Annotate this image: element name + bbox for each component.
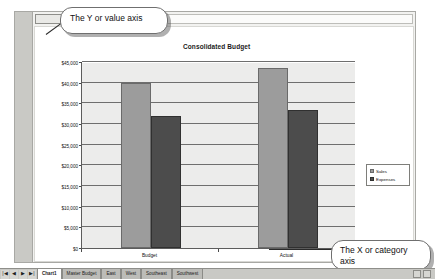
bar-sales-budget[interactable] <box>121 83 151 248</box>
legend-item-sales[interactable]: Sales <box>370 167 407 175</box>
sheet-tab-southeast[interactable]: Southeast <box>141 269 172 279</box>
sheet-tab-bar[interactable]: |◀◀▶▶| Chart1Master BudgetEastWestSouthe… <box>0 268 435 279</box>
bars-layer[interactable] <box>82 63 355 248</box>
tab-nav-button-3[interactable]: ▶| <box>28 270 36 279</box>
plot-area[interactable] <box>81 63 355 249</box>
y-axis[interactable]: $0$5,000$10,000$15,000$20,000$25,000$30,… <box>41 63 78 249</box>
legend-swatch-icon <box>370 177 374 181</box>
gridline <box>82 61 355 62</box>
y-axis-tick-label: $30,000 <box>61 123 78 128</box>
sheet-tab-master-budget[interactable]: Master Budget <box>62 269 102 279</box>
bar-sales-actual[interactable] <box>258 68 288 248</box>
y-axis-tick-label: $25,000 <box>61 143 78 148</box>
y-axis-tick-label: $40,000 <box>61 81 78 86</box>
y-axis-tick-label: $20,000 <box>61 164 78 169</box>
tab-nav-button-1[interactable]: ◀ <box>10 270 18 279</box>
bar-expenses-budget[interactable] <box>151 116 181 248</box>
legend-label: Sales <box>376 169 387 174</box>
legend-label: Expenses <box>376 177 395 182</box>
bar-expenses-actual[interactable] <box>288 110 318 248</box>
chart-title[interactable]: Consolidated Budget <box>183 43 250 50</box>
tab-nav-buttons[interactable]: |◀◀▶▶| <box>0 269 37 279</box>
x-axis-tick <box>218 249 219 252</box>
y-axis-tick-label: $35,000 <box>61 102 78 107</box>
legend-swatch-icon <box>370 169 374 173</box>
sheet-tab-chart1[interactable]: Chart1 <box>37 269 62 279</box>
sheet-tab-southwest[interactable]: Southwest <box>172 269 203 279</box>
x-axis-category-label: Budget <box>142 253 157 258</box>
y-axis-tick-label: $10,000 <box>61 205 78 210</box>
worksheet-page-frame: ▼ Consolidated Budget $0$5,000$10,000$15… <box>14 11 416 263</box>
tab-nav-button-0[interactable]: |◀ <box>1 270 9 279</box>
y-axis-tick-label: $0 <box>73 247 78 252</box>
chart-legend[interactable]: Sales Expenses <box>366 164 410 186</box>
status-area <box>411 269 435 279</box>
status-indicator-box <box>413 270 421 278</box>
sheet-tab-west[interactable]: West <box>121 269 141 279</box>
sheet-tab-east[interactable]: East <box>101 269 120 279</box>
legend-item-expenses[interactable]: Expenses <box>370 175 407 183</box>
x-axis-category-label: Actual <box>280 253 293 258</box>
chart-canvas[interactable]: Consolidated Budget $0$5,000$10,000$15,0… <box>34 26 414 262</box>
status-indicator-box <box>423 270 431 278</box>
callout-y-axis: The Y or value axis <box>60 7 168 34</box>
row-header-gutter <box>15 12 33 262</box>
x-axis-tick <box>81 249 82 252</box>
callout-leader-line <box>269 249 333 250</box>
tab-nav-button-2[interactable]: ▶ <box>19 270 27 279</box>
y-axis-tick-label: $15,000 <box>61 185 78 190</box>
tab-bar-filler <box>203 269 411 279</box>
y-axis-tick-label: $5,000 <box>64 226 78 231</box>
y-axis-tick-label: $45,000 <box>61 61 78 66</box>
sheet-tabs[interactable]: Chart1Master BudgetEastWestSoutheastSout… <box>37 269 203 279</box>
excel-chart-sheet-screenshot: ▼ Consolidated Budget $0$5,000$10,000$15… <box>0 0 435 279</box>
callout-x-axis: The X or category axis <box>331 240 431 270</box>
